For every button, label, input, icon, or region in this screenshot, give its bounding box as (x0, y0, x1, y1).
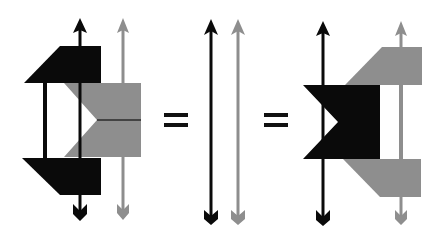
identity-strands (204, 19, 245, 225)
black-bottom-trapezoid (22, 158, 101, 195)
black-strand (204, 19, 218, 225)
black-strand (316, 21, 330, 226)
gray-bottom-trapezoid (343, 159, 421, 197)
left-configuration (22, 18, 141, 221)
black-connector (43, 83, 47, 158)
black-top-trapezoid (24, 46, 101, 83)
equals-sign (264, 113, 288, 127)
gray-top-trapezoid (345, 47, 422, 85)
black-chevron-block (303, 85, 380, 159)
gray-strand (231, 19, 245, 225)
right-configuration (303, 21, 422, 226)
diagram-canvas (0, 0, 448, 239)
equals-sign (164, 113, 188, 127)
gray-connector (399, 85, 403, 159)
